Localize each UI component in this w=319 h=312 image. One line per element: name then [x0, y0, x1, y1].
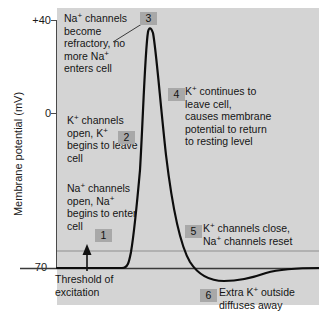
callout-step1-text: Na+ channelsopen, Na+begins to entercell — [67, 182, 147, 232]
callout-step4-badge: 4 — [168, 85, 185, 103]
callout-step2-badge: 2 — [118, 128, 135, 146]
callout-step3-badge: 3 — [140, 9, 157, 27]
threshold-arrow-head — [83, 244, 92, 255]
badge-label-5: 5 — [185, 225, 202, 238]
callout-step5-text: K+ channels close,Na+ channels reset — [203, 222, 315, 247]
threshold-annotation-text: Threshold ofexcitation — [55, 273, 165, 298]
callout-step6-text: Extra K+ outsidediffuses away — [219, 286, 315, 311]
callout-step3-text: Na+ channelsbecomerefractory, nomore Na+… — [64, 12, 150, 75]
badge-label-6: 6 — [200, 289, 217, 302]
badge-label-1: 1 — [95, 229, 112, 242]
badge-label-3: 3 — [140, 12, 157, 25]
callout-step5-badge: 5 — [185, 222, 202, 240]
badge-label-4: 4 — [168, 88, 185, 101]
callout-step6-badge: 6 — [200, 286, 217, 304]
badge-label-2: 2 — [118, 131, 135, 144]
callout-step4-text: K+ continues toleave cell,causes membran… — [185, 85, 303, 148]
action-potential-curve-layer — [0, 0, 319, 312]
callout-step1-badge: 1 — [95, 226, 112, 244]
action-potential-figure: Membrane potential (mV) +40 0 –70 Na+ ch… — [0, 0, 319, 312]
